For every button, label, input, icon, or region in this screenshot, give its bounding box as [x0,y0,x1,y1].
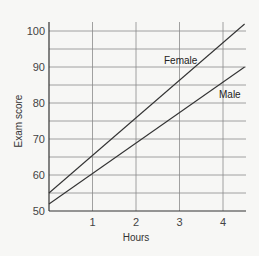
male-series-line [49,67,245,204]
x-tick-labels: 1 2 3 4 [89,216,226,228]
vertical-gridlines [93,22,224,211]
svg-text:4: 4 [220,216,226,228]
svg-text:50: 50 [33,205,45,217]
horizontal-gridlines [49,31,246,193]
svg-text:80: 80 [33,97,45,109]
svg-text:60: 60 [33,169,45,181]
svg-text:1: 1 [89,216,95,228]
x-axis-label: Hours [123,232,150,243]
y-axis-label: Exam score [13,94,24,147]
svg-text:70: 70 [33,133,45,145]
svg-text:3: 3 [176,216,182,228]
female-series-label: Female [164,55,198,66]
svg-text:2: 2 [133,216,139,228]
svg-text:90: 90 [33,61,45,73]
chart: 50 60 70 80 90 100 1 2 3 4 Hours Exam sc… [0,0,259,256]
male-series-label: Male [219,89,241,100]
svg-text:100: 100 [27,25,45,37]
y-tick-labels: 50 60 70 80 90 100 [27,25,45,217]
